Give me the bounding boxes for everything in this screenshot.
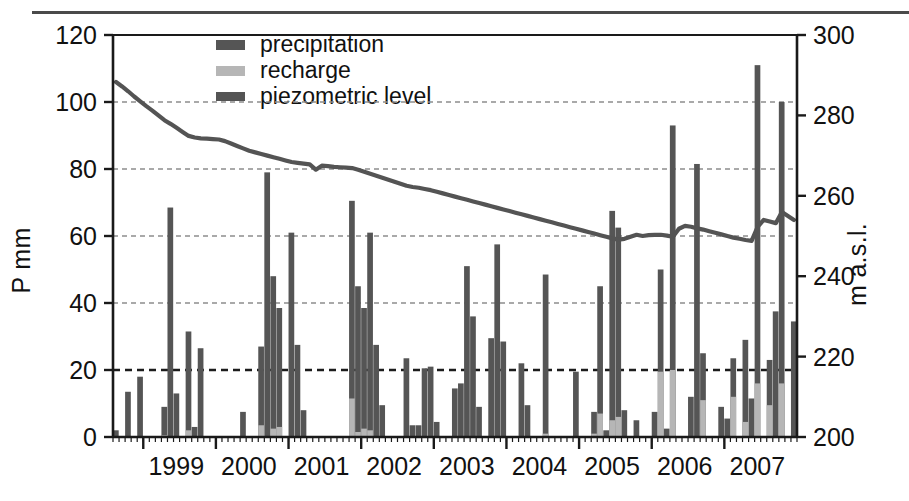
y-axis-left-tick-label: 0 xyxy=(83,423,97,451)
bar-recharge xyxy=(767,405,773,437)
bar-precipitation xyxy=(367,233,373,437)
bar-precipitation xyxy=(174,393,180,437)
bar-precipitation xyxy=(434,422,440,437)
x-axis-tick-label: 2005 xyxy=(584,452,640,480)
bar-precipitation xyxy=(361,308,367,437)
x-axis-tick-label: 1999 xyxy=(148,452,204,480)
x-axis-tick-label: 2001 xyxy=(294,452,350,480)
bar-precipitation xyxy=(609,211,615,437)
bar-precipitation xyxy=(458,383,464,437)
bar-precipitation xyxy=(773,311,779,437)
figure-container: P mm m a.s.l. precipitation recharge pie… xyxy=(0,0,909,501)
bar-recharge xyxy=(730,397,736,437)
bar-recharge xyxy=(276,427,282,437)
bar-precipitation xyxy=(500,342,506,437)
bar-recharge xyxy=(258,425,264,437)
bar-precipitation xyxy=(428,367,434,437)
y-axis-right-tick-label: 280 xyxy=(813,101,855,129)
bar-precipitation xyxy=(270,276,276,437)
bar-recharge xyxy=(615,417,621,437)
bar-precipitation xyxy=(276,308,282,437)
bar-precipitation xyxy=(373,345,379,437)
x-axis-tick-label: 2002 xyxy=(366,452,422,480)
bar-recharge xyxy=(349,398,355,437)
y-axis-right-tick-label: 300 xyxy=(813,21,855,49)
y-axis-left-tick-label: 120 xyxy=(55,21,97,49)
bar-precipitation xyxy=(416,425,422,437)
y-axis-left-tick-label: 40 xyxy=(69,289,97,317)
bar-recharge xyxy=(700,400,706,437)
y-axis-right-tick-label: 260 xyxy=(813,182,855,210)
bar-precipitation xyxy=(755,65,761,437)
bar-precipitation xyxy=(137,377,143,437)
x-axis-tick-label: 2007 xyxy=(730,452,786,480)
bar-precipitation xyxy=(519,363,525,437)
bar-precipitation xyxy=(295,345,301,437)
bar-precipitation xyxy=(464,266,470,437)
bar-precipitation xyxy=(161,407,167,437)
bar-precipitation xyxy=(525,405,531,437)
bar-recharge xyxy=(670,370,676,437)
bar-precipitation xyxy=(494,244,500,437)
y-axis-right-tick-label: 220 xyxy=(813,343,855,371)
y-axis-left-tick-label: 20 xyxy=(69,356,97,384)
x-axis-tick-label: 2006 xyxy=(657,452,713,480)
precipitation-recharge-piezometric-chart: 0204060801001202002202402602803001999200… xyxy=(0,0,909,501)
bar-recharge xyxy=(779,383,785,437)
bar-precipitation xyxy=(694,164,700,437)
bar-precipitation xyxy=(621,410,627,437)
bar-precipitation xyxy=(688,397,694,437)
bar-precipitation xyxy=(718,407,724,437)
bar-precipitation xyxy=(724,419,730,437)
bar-precipitation xyxy=(125,392,131,437)
bar-recharge xyxy=(743,422,749,437)
bar-precipitation xyxy=(749,398,755,437)
x-axis-tick-label: 2000 xyxy=(221,452,277,480)
x-axis-tick-label: 2004 xyxy=(512,452,568,480)
bar-precipitation xyxy=(634,420,640,437)
x-axis-tick-label: 2003 xyxy=(439,452,495,480)
bar-precipitation xyxy=(573,372,579,437)
bar-precipitation xyxy=(476,407,482,437)
y-axis-left-tick-label: 80 xyxy=(69,155,97,183)
bar-precipitation xyxy=(422,368,428,437)
line-piezometric-level xyxy=(116,82,794,241)
bar-precipitation xyxy=(543,275,549,437)
bar-precipitation xyxy=(652,412,658,437)
bar-precipitation xyxy=(198,348,204,437)
bar-precipitation xyxy=(379,405,385,437)
bar-recharge xyxy=(609,420,615,437)
bar-precipitation xyxy=(355,286,361,437)
y-axis-right-tick-label: 200 xyxy=(813,423,855,451)
bar-precipitation xyxy=(167,208,173,437)
bar-precipitation xyxy=(192,427,198,437)
bar-precipitation xyxy=(289,233,295,437)
bar-precipitation xyxy=(470,316,476,437)
y-axis-left-tick-label: 60 xyxy=(69,222,97,250)
bar-precipitation xyxy=(615,228,621,437)
bar-precipitation xyxy=(410,425,416,437)
bar-precipitation xyxy=(240,412,246,437)
bar-recharge xyxy=(597,414,603,437)
bar-precipitation xyxy=(452,388,458,437)
bar-precipitation xyxy=(301,410,307,437)
bar-recharge xyxy=(755,383,761,437)
bar-precipitation xyxy=(258,347,264,437)
bar-precipitation xyxy=(404,358,410,437)
y-axis-right-tick-label: 240 xyxy=(813,262,855,290)
bar-precipitation xyxy=(264,172,270,437)
bar-precipitation xyxy=(488,338,494,437)
bar-precipitation xyxy=(186,331,192,437)
bar-recharge xyxy=(658,372,664,437)
bar-precipitation xyxy=(591,412,597,437)
y-axis-left-tick-label: 100 xyxy=(55,88,97,116)
